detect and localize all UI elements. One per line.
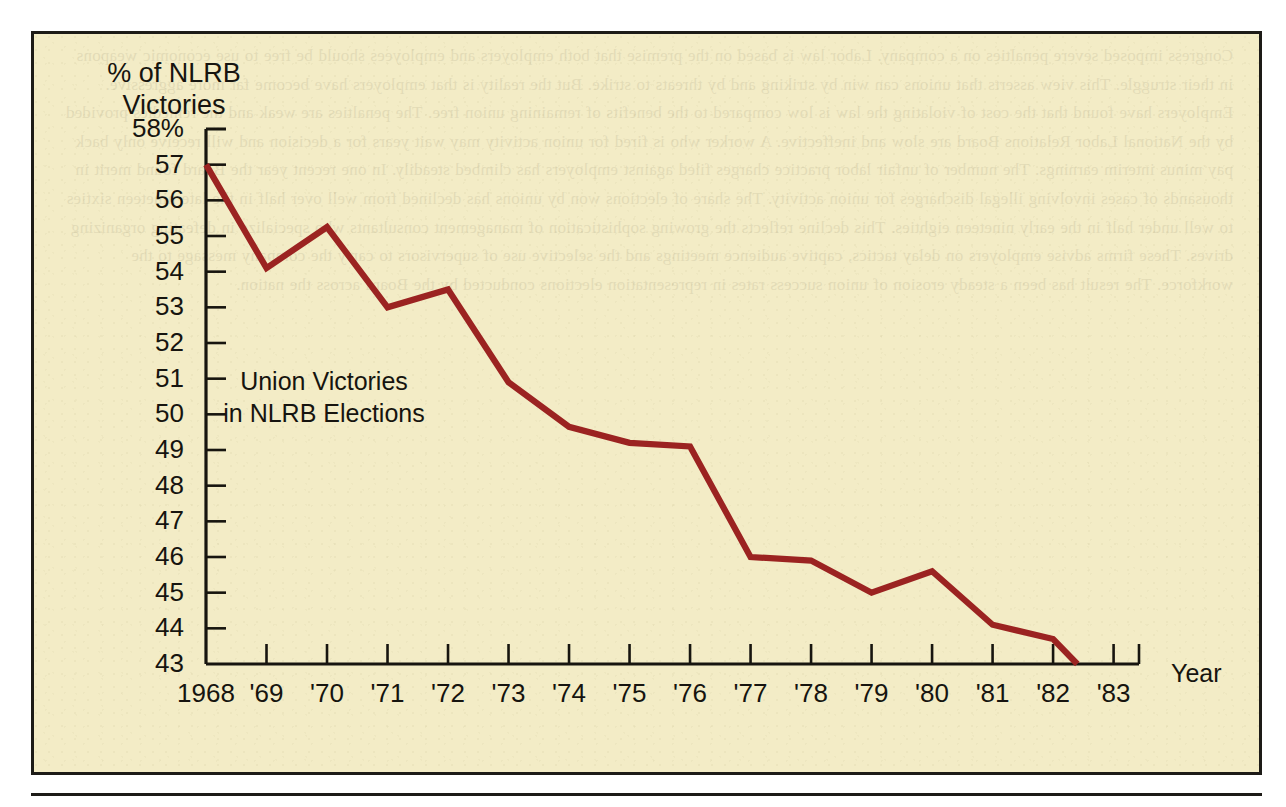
x-axis-tick-label: '74	[552, 678, 586, 708]
x-axis-tick-label: '71	[371, 678, 405, 708]
x-axis-tick-labels: 1968'69'70'71'72'73'74'75'76'77'78'79'80…	[177, 678, 1130, 708]
x-axis-tick-label: '72	[431, 678, 465, 708]
x-axis-tick-label: '81	[976, 678, 1010, 708]
y-axis-tick-label: 47	[155, 505, 184, 535]
x-axis-tick-label: '80	[915, 678, 949, 708]
y-axis-tick-label: 54	[155, 256, 184, 286]
x-axis-tick-label: '69	[250, 678, 284, 708]
y-axis-tick-label: 45	[155, 577, 184, 607]
x-axis-tick-label: '82	[1036, 678, 1070, 708]
x-axis-tick-label: '73	[492, 678, 526, 708]
x-axis-tick-label: '75	[613, 678, 647, 708]
annotation-line1: Union Victories	[240, 367, 408, 395]
y-axis-tick-label: 43	[155, 648, 184, 678]
x-axis-tick-label: '70	[310, 678, 344, 708]
y-axis-tick-label: 55	[155, 220, 184, 250]
y-axis-tick-label: 46	[155, 541, 184, 571]
annotation-line2: in NLRB Elections	[223, 399, 424, 427]
bottom-divider-rule	[31, 793, 1262, 796]
y-axis-tick-label: 52	[155, 327, 184, 357]
x-axis-title: Year	[1171, 659, 1222, 687]
y-axis-tick-marks	[206, 129, 226, 628]
y-axis-tick-label: 51	[155, 363, 184, 393]
y-axis-tick-label: 50	[155, 398, 184, 428]
y-axis-tick-label: 57	[155, 149, 184, 179]
x-axis-tick-label: '78	[794, 678, 828, 708]
page-root: Congress imposed severe penalties on a c…	[0, 0, 1286, 807]
y-axis-tick-label: 49	[155, 434, 184, 464]
y-axis-tick-label: 48	[155, 470, 184, 500]
y-axis-tick-label: 44	[155, 612, 184, 642]
x-axis-tick-label: '83	[1097, 678, 1131, 708]
x-axis-tick-label: '77	[734, 678, 768, 708]
y-axis-title-line1: % of NLRB	[107, 58, 241, 88]
x-axis-tick-label: 1968	[177, 678, 235, 708]
y-axis-title-line2: Victories	[122, 90, 225, 120]
x-axis-tick-label: '79	[855, 678, 889, 708]
y-axis-tick-labels: 58%575655545352515049484746454443	[132, 113, 184, 678]
y-axis-tick-label: 56	[155, 184, 184, 214]
y-axis-tick-label: 53	[155, 291, 184, 321]
x-axis-tick-marks	[267, 644, 1139, 664]
x-axis-tick-label: '76	[673, 678, 707, 708]
line-chart: 58%575655545352515049484746454443 1968'6…	[34, 34, 1259, 772]
chart-panel: Congress imposed severe penalties on a c…	[31, 31, 1262, 775]
